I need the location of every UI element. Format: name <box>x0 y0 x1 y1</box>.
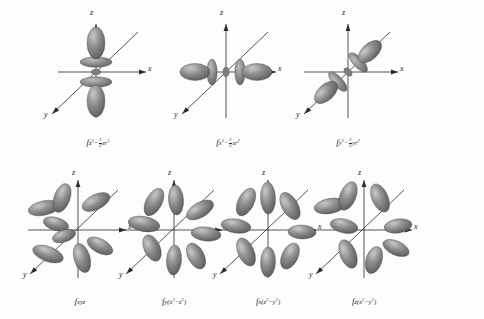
axis-label-y: y <box>296 110 300 119</box>
orbital-diagram-fy3: x z y <box>290 10 410 125</box>
lobe-z-up <box>87 27 105 59</box>
lobe-7 <box>182 240 209 272</box>
axis-label-y: y <box>213 270 217 279</box>
caption-fz-x2-y2: fz(x2−y2) <box>306 290 422 308</box>
lobe-4 <box>329 216 359 236</box>
lobe-center <box>223 67 229 77</box>
caption-fraction-fy3: 35 <box>349 138 352 148</box>
axis-label-y: y <box>174 110 178 119</box>
axis-label-y: y <box>23 270 27 279</box>
caption-frac-den-fx3: 5 <box>229 144 232 149</box>
axis-label-z: z <box>90 8 93 17</box>
caption-fz3: fz3−35zr2 <box>38 131 158 149</box>
lobe-7 <box>362 244 386 276</box>
lobe-z-down <box>87 85 105 117</box>
axis-label-z: z <box>168 168 171 177</box>
lobe-8 <box>277 240 304 272</box>
caption-suffix-fx: ) <box>278 298 280 305</box>
caption-term2-exp-fy3: 2 <box>358 138 360 143</box>
caption-frac-den-fy3: 5 <box>349 144 352 149</box>
caption-fx3: fx3−35xr2 <box>168 131 288 149</box>
axis-label-z: z <box>358 168 361 177</box>
lobe-3 <box>127 214 161 234</box>
axis-label-x: x <box>414 222 418 231</box>
caption-suffix-fz: ) <box>374 298 376 305</box>
caption-term2-exp-fz3: 2 <box>107 138 109 143</box>
caption-suffix-fy: ) <box>184 298 186 305</box>
orbital-diagram-fz-x2-y2: x z y <box>308 172 424 284</box>
axis-label-z: z <box>262 168 265 177</box>
axis-label-y: y <box>119 270 123 279</box>
lobe-2 <box>167 185 184 216</box>
caption-fy3: fy3−35yr2 <box>288 131 408 149</box>
lobe-1 <box>232 185 260 219</box>
lobe-center <box>91 69 101 75</box>
axis-label-x: x <box>278 64 282 73</box>
lobe-8 <box>139 232 165 264</box>
caption-fraction-fx3: 35 <box>229 138 232 148</box>
lobe-3 <box>367 181 394 215</box>
orbital-diagram-fz3: x z y <box>38 10 158 125</box>
lobe-8 <box>380 236 411 260</box>
axis-label-x: x <box>148 64 152 73</box>
lobe-7 <box>260 247 276 278</box>
caption-fraction-fz3: 35 <box>99 138 102 148</box>
axis-label-z: z <box>342 8 345 17</box>
lobe-x-pos <box>242 64 272 81</box>
lobe-2 <box>260 182 276 215</box>
lobe-1 <box>140 185 168 219</box>
lobe-5 <box>383 217 413 235</box>
axis-label-x: x <box>400 64 404 73</box>
lobe-group-fxyz <box>27 181 116 274</box>
axis-label-y: y <box>44 110 48 119</box>
lobe-6 <box>165 245 182 276</box>
lobe-6 <box>335 237 361 271</box>
caption-frac-den-fz3: 5 <box>99 144 102 149</box>
caption-sub-fxyz: xyz <box>77 298 85 305</box>
lobe-x-neg <box>180 64 210 81</box>
axis-label-z: z <box>72 168 75 177</box>
axis-label-z: z <box>220 8 223 17</box>
lobe-3 <box>276 189 305 223</box>
lobe-group-fz-x2-y2 <box>313 179 413 276</box>
caption-term2-exp-fx3: 2 <box>238 138 240 143</box>
orbital-diagram-fx3: x z y <box>168 10 288 125</box>
axis-label-y: y <box>309 270 313 279</box>
f-orbital-figure: x z y fz3−35zr2 x z y f <box>0 0 484 319</box>
lobe-4 <box>220 217 252 235</box>
